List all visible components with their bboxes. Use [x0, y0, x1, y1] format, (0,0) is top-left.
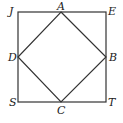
label-a: A [56, 0, 65, 13]
label-t: T [108, 96, 117, 109]
label-b: B [108, 51, 117, 64]
label-j: J [7, 5, 14, 18]
label-d: D [7, 51, 17, 64]
label-e: E [107, 5, 116, 18]
geometry-diagram: J A E D B S C T [0, 0, 123, 123]
outer-square [18, 12, 106, 102]
label-s: S [9, 96, 17, 109]
inner-square [18, 12, 106, 102]
label-c: C [57, 104, 66, 117]
